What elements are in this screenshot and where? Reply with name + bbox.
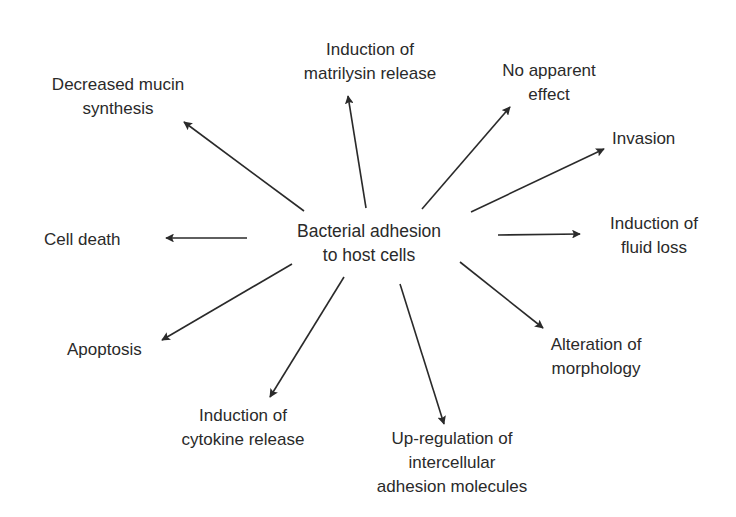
outcome-alteration-of-morphology: Alteration of morphology (551, 333, 642, 381)
outcome-label-line: Alteration of (551, 333, 642, 357)
outcome-label-line: fluid loss (610, 236, 698, 260)
outcome-cell-death: Cell death (44, 228, 121, 252)
outcome-label-line: Decreased mucin (52, 73, 184, 97)
arrow-to-morphology (460, 262, 543, 328)
arrow-to-adhesion-molecules (400, 284, 444, 424)
outcome-label-line: Invasion (612, 127, 675, 151)
outcome-label-line: intercellular (377, 451, 527, 475)
outcome-label-line: Cell death (44, 228, 121, 252)
outcome-induction-of-fluid-loss: Induction of fluid loss (610, 212, 698, 260)
center-node-bacterial-adhesion: Bacterial adhesion to host cells (297, 219, 441, 267)
outcome-label-line: Induction of (610, 212, 698, 236)
arrow-to-fluid-loss (498, 234, 580, 235)
outcome-label-line: Induction of (182, 404, 305, 428)
outcome-invasion: Invasion (612, 127, 675, 151)
outcome-label-line: Up-regulation of (377, 427, 527, 451)
outcome-label-line: morphology (551, 357, 642, 381)
outcome-induction-of-matrilysin-release: Induction of matrilysin release (304, 38, 436, 86)
outcome-label-line: effect (502, 83, 596, 107)
arrow-to-apoptosis (162, 264, 292, 340)
outcome-up-regulation-of-adhesion-molecules: Up-regulation of intercellular adhesion … (377, 427, 527, 499)
outcome-label-line: synthesis (52, 97, 184, 121)
arrow-to-cytokine (270, 277, 344, 397)
arrow-to-matrilysin (348, 96, 366, 208)
outcome-label-line: No apparent (502, 59, 596, 83)
center-label-line-2: to host cells (297, 243, 441, 267)
arrow-to-decreased-mucin (184, 122, 304, 211)
outcome-label-line: cytokine release (182, 428, 305, 452)
outcome-no-apparent-effect: No apparent effect (502, 59, 596, 107)
outcome-label-line: adhesion molecules (377, 475, 527, 499)
center-label-line-1: Bacterial adhesion (297, 219, 441, 243)
outcome-induction-of-cytokine-release: Induction of cytokine release (182, 404, 305, 452)
outcome-apoptosis: Apoptosis (67, 338, 142, 362)
outcome-decreased-mucin-synthesis: Decreased mucin synthesis (52, 73, 184, 121)
arrow-to-invasion (471, 149, 604, 212)
bacterial-adhesion-diagram: Bacterial adhesion to host cells Decreas… (0, 0, 736, 517)
outcome-label-line: Apoptosis (67, 338, 142, 362)
outcome-label-line: Induction of (304, 38, 436, 62)
outcome-label-line: matrilysin release (304, 62, 436, 86)
arrow-to-no-effect (422, 107, 510, 209)
